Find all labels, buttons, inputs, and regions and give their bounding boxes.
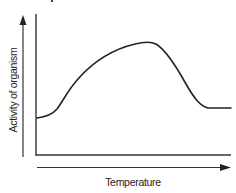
axes <box>36 14 232 156</box>
diagram-canvas <box>0 0 236 193</box>
arrow-right-icon <box>220 164 231 171</box>
arrow-up-icon <box>20 15 27 25</box>
x-axis-label: Temperature <box>105 176 161 188</box>
cropped-title-fragment <box>51 0 53 2</box>
x-arrow <box>37 164 231 171</box>
y-axis-label: Activity of organism <box>7 47 19 132</box>
activity-curve <box>37 42 231 118</box>
y-arrow <box>20 15 27 157</box>
